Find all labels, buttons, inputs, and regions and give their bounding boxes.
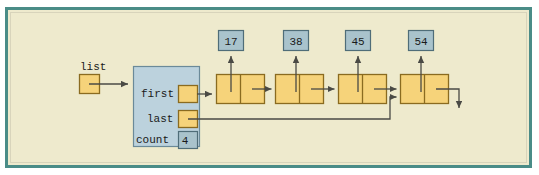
first-field-label: first — [141, 88, 174, 100]
diagram-canvas: list first last count 4 17 38 — [0, 0, 539, 175]
list-variable-label: list — [80, 61, 106, 73]
data-box-45-value: 45 — [351, 36, 364, 48]
count-field-value: 4 — [182, 135, 189, 147]
count-field-label: count — [136, 134, 169, 146]
linked-list-diagram: list first last count 4 17 38 — [0, 0, 539, 175]
data-box-54-value: 54 — [414, 36, 428, 48]
data-box-38-value: 38 — [289, 36, 302, 48]
data-box-17-value: 17 — [224, 36, 237, 48]
first-field — [179, 86, 198, 103]
last-field-label: last — [147, 113, 173, 125]
